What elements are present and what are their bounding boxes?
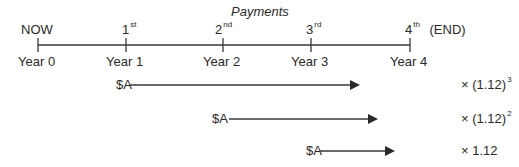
label-year-1: Year 1 xyxy=(106,54,143,69)
payment-1-number: 1 xyxy=(122,22,129,37)
flow-3-label: $A xyxy=(306,143,322,158)
label-year-2: Year 2 xyxy=(203,54,240,69)
payment-4-number: 4 xyxy=(405,22,412,37)
multiplier-1-exponent: 3 xyxy=(507,75,511,84)
multiplier-1: × (1.12)3 xyxy=(461,77,512,92)
multiplier-3: × 1.12 xyxy=(461,143,498,158)
label-payment-4: 4th (END) xyxy=(405,22,466,37)
label-year-3: Year 3 xyxy=(291,54,328,69)
multiplier-1-base: × (1.12) xyxy=(461,77,506,92)
label-year-0: Year 0 xyxy=(18,54,55,69)
label-payment-3: 3rd xyxy=(306,22,321,37)
arrow-1-head xyxy=(350,80,360,90)
arrow-2-head xyxy=(368,114,378,124)
label-end: (END) xyxy=(430,22,466,37)
label-year-4: Year 4 xyxy=(390,54,427,69)
payment-3-number: 3 xyxy=(306,22,313,37)
label-now: NOW xyxy=(21,22,53,37)
label-payment-1: 1st xyxy=(122,22,136,37)
flow-1-label: $A xyxy=(116,77,132,92)
multiplier-2-exponent: 2 xyxy=(507,109,511,118)
label-payment-2: 2nd xyxy=(215,22,232,37)
payment-3-suffix: rd xyxy=(314,20,321,29)
payment-4-suffix: th xyxy=(413,20,420,29)
diagram-title: Payments xyxy=(231,4,289,19)
arrow-3-head xyxy=(385,146,395,156)
multiplier-2-base: × (1.12) xyxy=(461,111,506,126)
label-now-text: NOW xyxy=(21,22,53,37)
payment-2-number: 2 xyxy=(215,22,222,37)
multiplier-3-base: × 1.12 xyxy=(461,143,498,158)
payment-1-suffix: st xyxy=(130,20,136,29)
multiplier-2: × (1.12)2 xyxy=(461,111,512,126)
payment-2-suffix: nd xyxy=(223,20,232,29)
flow-2-label: $A xyxy=(212,111,228,126)
